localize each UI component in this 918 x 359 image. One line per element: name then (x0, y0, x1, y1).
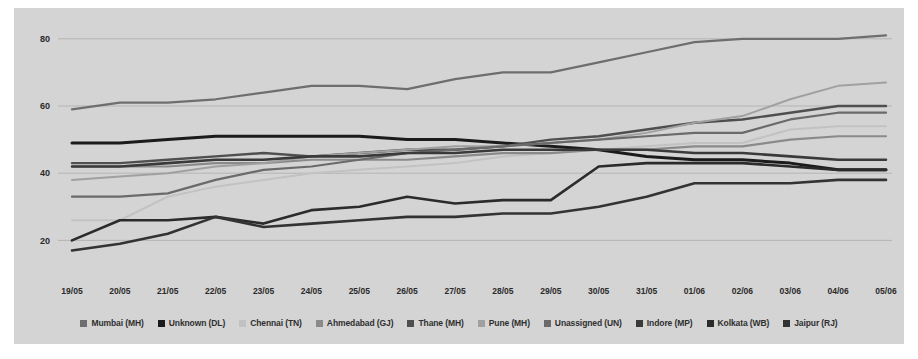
x-tick-label: 28/05 (492, 286, 514, 296)
y-tick-label: 60 (40, 101, 50, 111)
x-tick-label: 19/05 (61, 286, 83, 296)
x-tick-label: 22/05 (205, 286, 227, 296)
legend-item-thane-mh[interactable]: Thane (MH) (407, 318, 463, 328)
legend-swatch-icon (158, 320, 165, 327)
legend-label: Ahmedabad (GJ) (327, 318, 394, 328)
x-axis-tick-labels: 19/0520/0521/0522/0523/0524/0525/0526/05… (61, 286, 897, 296)
legend-swatch-icon (80, 320, 87, 327)
legend-item-pune-mh[interactable]: Pune (MH) (478, 318, 530, 328)
plot-area: 20406080 19/0520/0521/0522/0523/0524/052… (14, 8, 904, 344)
x-tick-label: 21/05 (157, 286, 179, 296)
y-axis-tick-labels: 20406080 (40, 34, 50, 246)
legend-label: Unknown (DL) (169, 318, 225, 328)
legend-swatch-icon (783, 320, 790, 327)
legend-label: Mumbai (MH) (91, 318, 143, 328)
legend-swatch-icon (316, 320, 323, 327)
x-tick-label: 04/06 (827, 286, 849, 296)
x-tick-label: 23/05 (253, 286, 275, 296)
legend-item-chennai-tn[interactable]: Chennai (TN) (239, 318, 302, 328)
series-lines (72, 35, 886, 250)
x-tick-label: 29/05 (540, 286, 562, 296)
chart-legend: Mumbai (MH)Unknown (DL)Chennai (TN)Ahmed… (14, 318, 904, 328)
legend-label: Pune (MH) (489, 318, 530, 328)
series-line-mumbai-mh (72, 35, 886, 109)
legend-label: Thane (MH) (418, 318, 463, 328)
x-tick-label: 26/05 (397, 286, 419, 296)
legend-item-jaipur-rj[interactable]: Jaipur (RJ) (783, 318, 837, 328)
legend-label: Kolkata (WB) (718, 318, 770, 328)
line-chart-svg: 20406080 19/0520/0521/0522/0523/0524/052… (14, 8, 904, 344)
chart-card: 20406080 19/0520/0521/0522/0523/0524/052… (14, 8, 904, 344)
legend-label: Unassigned (UN) (555, 318, 622, 328)
x-tick-label: 27/05 (444, 286, 466, 296)
legend-item-indore-mp[interactable]: Indore (MP) (636, 318, 693, 328)
y-tick-label: 40 (40, 168, 50, 178)
legend-item-unassigned-un[interactable]: Unassigned (UN) (544, 318, 622, 328)
legend-item-kolkata-wb[interactable]: Kolkata (WB) (707, 318, 770, 328)
legend-swatch-icon (239, 320, 246, 327)
legend-item-unknown-dl[interactable]: Unknown (DL) (158, 318, 225, 328)
x-tick-label: 30/05 (588, 286, 610, 296)
legend-item-ahmedabad-gj[interactable]: Ahmedabad (GJ) (316, 318, 394, 328)
legend-item-mumbai-mh[interactable]: Mumbai (MH) (80, 318, 143, 328)
legend-swatch-icon (478, 320, 485, 327)
x-tick-label: 02/06 (732, 286, 754, 296)
legend-swatch-icon (407, 320, 414, 327)
legend-label: Indore (MP) (647, 318, 693, 328)
y-tick-label: 20 (40, 236, 50, 246)
legend-label: Jaipur (RJ) (794, 318, 837, 328)
x-tick-label: 01/06 (684, 286, 706, 296)
x-tick-label: 31/05 (636, 286, 658, 296)
x-tick-label: 05/06 (875, 286, 897, 296)
legend-swatch-icon (707, 320, 714, 327)
y-tick-label: 80 (40, 34, 50, 44)
legend-swatch-icon (636, 320, 643, 327)
x-tick-label: 25/05 (349, 286, 371, 296)
x-tick-label: 03/06 (780, 286, 802, 296)
x-tick-label: 20/05 (109, 286, 131, 296)
series-line-kolkata-wb (72, 163, 886, 240)
x-tick-label: 24/05 (301, 286, 323, 296)
legend-label: Chennai (TN) (250, 318, 302, 328)
legend-swatch-icon (544, 320, 551, 327)
